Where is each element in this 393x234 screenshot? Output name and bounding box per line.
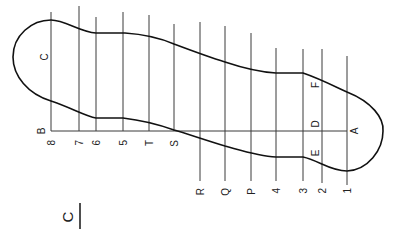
point-label-c: C: [39, 53, 50, 60]
station-label-6: 6: [91, 140, 102, 146]
point-label-e: E: [310, 149, 321, 156]
diagram-canvas: 8765TSRQP4321 BADEFC C: [0, 0, 393, 234]
point-label-a: A: [349, 127, 360, 134]
station-label-2: 2: [317, 188, 328, 194]
station-labels: 8765TSRQP4321: [46, 140, 353, 196]
point-label-b: B: [36, 127, 47, 134]
figure-title-letter: C: [59, 211, 76, 222]
station-label-8: 8: [46, 140, 57, 146]
station-label-4: 4: [271, 188, 282, 194]
station-label-s: S: [169, 140, 180, 147]
sole-pattern-diagram: 8765TSRQP4321 BADEFC C: [0, 0, 393, 234]
station-label-3: 3: [298, 188, 309, 194]
station-label-q: Q: [220, 188, 231, 196]
point-label-f: F: [310, 82, 321, 88]
point-label-d: D: [310, 120, 321, 127]
station-label-t: T: [144, 140, 155, 146]
station-label-5: 5: [118, 140, 129, 146]
station-label-7: 7: [74, 140, 85, 146]
sole-outline: [13, 20, 383, 171]
station-label-p: P: [246, 188, 257, 195]
station-label-r: R: [195, 188, 206, 195]
figure-title: C: [59, 211, 76, 222]
station-label-1: 1: [342, 188, 353, 194]
